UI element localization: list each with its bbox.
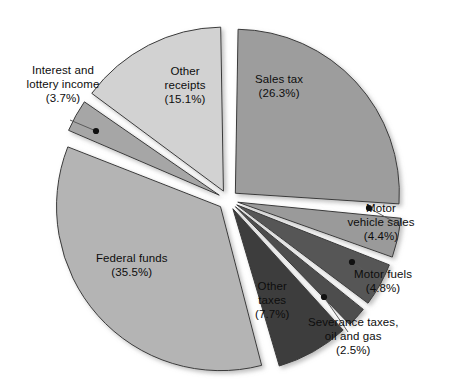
leader-dot-motor-fuels — [349, 259, 355, 265]
slice-label-motor-fuels: Motor fuels (4.8%) — [354, 267, 412, 295]
slice-label-other-receipts: Other receipts (15.1%) — [165, 64, 206, 106]
pie-chart: Sales tax (26.3%)Motor vehicle sales (4.… — [0, 0, 467, 387]
slice-label-sales-tax: Sales tax (26.3%) — [255, 72, 303, 100]
leader-dot-interest-and-lottery-income — [93, 128, 99, 134]
slice-label-interest-and-lottery-income: Interest and lottery income (3.7%) — [27, 63, 100, 105]
leader-dot-severance-taxes-oil-and-gas — [321, 294, 327, 300]
slice-label-severance-taxes-oil-and-gas: Severance taxes, oil and gas (2.5%) — [308, 315, 398, 357]
slice-label-motor-vehicle-sales: Motor vehicle sales (4.4%) — [348, 201, 415, 243]
slice-label-federal-funds: Federal funds (35.5%) — [96, 251, 168, 279]
pie-slice-sales-tax[interactable] — [235, 29, 399, 204]
slice-label-other-taxes: Other taxes (7.7%) — [255, 279, 289, 321]
